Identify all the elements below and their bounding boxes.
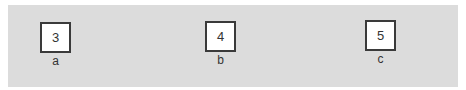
cell-b: 4 b: [205, 21, 236, 67]
value-text: 5: [377, 28, 384, 43]
cell-label: b: [205, 53, 236, 67]
value-box: 4: [205, 21, 236, 52]
diagram-panel: 3 a 4 b 5 c: [8, 5, 458, 87]
value-text: 3: [52, 30, 59, 45]
cell-a: 3 a: [40, 22, 71, 68]
value-box: 5: [365, 20, 396, 51]
cell-c: 5 c: [365, 20, 396, 66]
value-text: 4: [217, 29, 224, 44]
cell-label: c: [365, 52, 396, 66]
value-box: 3: [40, 22, 71, 53]
cell-label: a: [40, 54, 71, 68]
